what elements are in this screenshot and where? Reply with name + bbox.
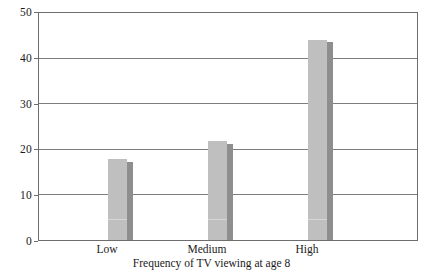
bar-high-band xyxy=(308,219,327,220)
y-tick-label: 30 xyxy=(4,99,32,111)
bar-chart: 50 40 30 20 10 0 xyxy=(0,0,423,273)
y-tick-label: 10 xyxy=(4,190,32,202)
plot-area xyxy=(38,12,418,241)
bar-group-medium xyxy=(208,12,233,240)
y-tick-label: 0 xyxy=(4,236,32,248)
bar-medium-light xyxy=(208,141,227,240)
bar-group-high xyxy=(308,12,333,240)
bar-medium-band xyxy=(208,219,227,220)
x-tick-label-high: High xyxy=(277,244,337,256)
y-tick-label: 40 xyxy=(4,53,32,65)
x-tick-label-medium: Medium xyxy=(177,244,237,256)
bar-group-low xyxy=(108,12,133,240)
y-tick-mark xyxy=(34,241,38,242)
bar-low-light xyxy=(108,159,127,240)
bar-high-light xyxy=(308,40,327,240)
bar-medium-dark xyxy=(227,144,233,240)
x-tick-label-low: Low xyxy=(77,244,137,256)
y-tick-label: 20 xyxy=(4,144,32,156)
y-tick-label: 50 xyxy=(4,7,32,19)
x-axis-title: Frequency of TV viewing at age 8 xyxy=(0,258,423,270)
bar-low-band xyxy=(108,219,127,220)
bar-low-dark xyxy=(127,162,133,240)
bar-high-dark xyxy=(327,42,333,240)
